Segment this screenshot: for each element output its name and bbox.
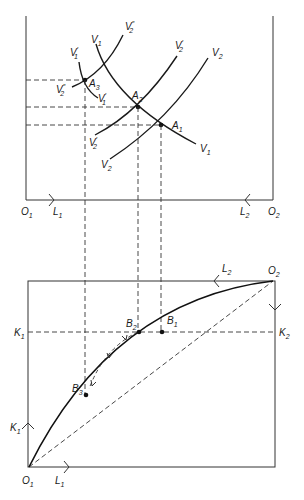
label-l2-bottom: L2 — [222, 263, 232, 276]
point-b1 — [160, 330, 165, 335]
box-diagonal — [29, 281, 273, 467]
bottom-panel: L2 O2 B2 B1 K1 K2 B3 K1 O1 L1 — [10, 263, 290, 488]
label-b2: B2 — [126, 318, 137, 331]
label-v1-prime-end: V′1 — [98, 92, 107, 106]
label-v2-top: V2 — [212, 47, 223, 60]
label-v2-end: V2 — [101, 159, 112, 172]
path-arrow-icon-3 — [91, 380, 96, 386]
vertical-connectors — [85, 80, 161, 395]
label-o1-top: O1 — [21, 206, 33, 219]
label-v2-double-prime-end: V″2 — [56, 83, 66, 97]
label-l1-top: L1 — [53, 206, 63, 219]
point-b2 — [137, 330, 142, 335]
label-v1-end: V1 — [200, 143, 211, 156]
label-o1-bottom: O1 — [22, 475, 34, 488]
label-b1: B1 — [167, 315, 178, 328]
label-v2-double-prime-top: V″2 — [125, 20, 135, 34]
curve-v2 — [110, 58, 208, 159]
label-l1-bottom: L1 — [55, 475, 65, 488]
top-panel: V″2 V1 V′1 V′2 V2 V″2 V′1 V′2 V2 V1 A3 A… — [21, 16, 280, 219]
path-arrow-icon-1 — [122, 335, 127, 340]
label-o2-top: O2 — [268, 206, 280, 219]
label-k1-axis: K1 — [10, 422, 21, 435]
label-o2-bottom: O2 — [268, 265, 280, 278]
label-v2-prime-end: V′2 — [89, 136, 98, 150]
label-v2-prime-top: V′2 — [175, 39, 184, 53]
label-a3: A3 — [88, 78, 100, 91]
label-l2-top: L2 — [240, 206, 250, 219]
label-k2-line: K2 — [279, 327, 290, 340]
label-v1-prime-top: V′1 — [70, 46, 79, 60]
adjustment-path — [89, 332, 138, 389]
diagram-canvas: V″2 V1 V′1 V′2 V2 V″2 V′1 V′2 V2 V1 A3 A… — [0, 0, 304, 500]
point-b3 — [84, 393, 89, 398]
label-k1-line: K1 — [14, 327, 25, 340]
